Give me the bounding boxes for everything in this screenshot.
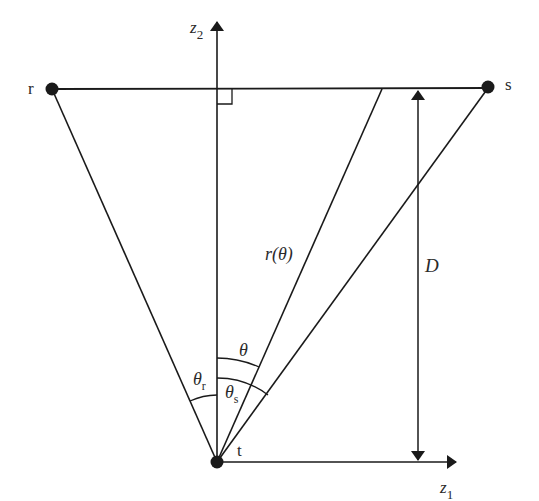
label-theta: θ [239, 340, 248, 360]
geometry-diagram: r s t z2 z1 r(θ) D θ θr θs [0, 0, 539, 501]
label-r: r [28, 79, 34, 98]
label-r-theta: r(θ) [265, 244, 293, 265]
right-angle-marker [217, 89, 232, 104]
point-r [46, 83, 59, 96]
label-z1: z1 [439, 478, 453, 501]
label-theta-s: θs [225, 382, 239, 406]
theta-r-arc [190, 395, 217, 401]
label-theta-r: θr [193, 369, 206, 393]
label-t: t [237, 441, 242, 460]
label-s: s [505, 75, 512, 94]
label-D: D [424, 255, 439, 276]
ts-line [217, 88, 488, 462]
theta-arc [217, 358, 259, 367]
rs-line [52, 88, 488, 89]
r-theta-line [217, 89, 382, 462]
label-z2: z2 [189, 18, 203, 42]
tr-line [52, 89, 217, 462]
point-s [482, 81, 495, 94]
point-t [211, 456, 224, 469]
